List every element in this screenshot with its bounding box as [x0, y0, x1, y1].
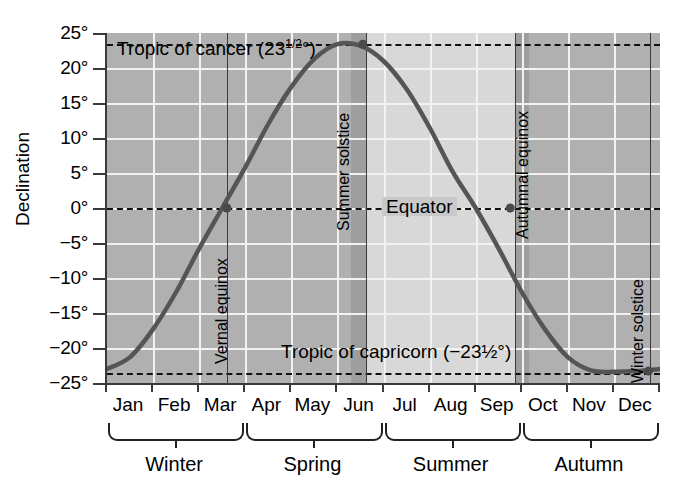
tropic-of-cancer-label: Tropic of cancer (231/2°) [117, 35, 316, 58]
x-axis-tick-mark [105, 383, 107, 392]
tropic-of-cancer-fraction: 1/2 [285, 37, 302, 51]
season-label: Autumn [523, 453, 655, 475]
season-bracket [246, 423, 382, 441]
y-axis-tick-mark [93, 383, 105, 385]
x-axis-tick-mark [520, 383, 522, 392]
y-axis-tick-label: −10° [4, 268, 88, 287]
y-axis-tick-label: 15° [4, 93, 88, 112]
y-axis-tick-label: 20° [4, 58, 88, 77]
season-label: Winter [108, 453, 240, 475]
y-axis-tick-mark [93, 173, 105, 175]
y-axis-tick-mark [93, 33, 105, 35]
autumnal-equinox-label: Autumnal equinox [515, 111, 531, 239]
y-axis-tick-mark [93, 348, 105, 350]
season-bracket [108, 423, 244, 441]
tropic-of-cancer-text: Tropic of cancer (23 [117, 38, 285, 59]
y-axis-tick-mark [93, 208, 105, 210]
x-axis-tick-mark [197, 383, 199, 392]
y-axis-tick-label: 0° [4, 198, 88, 217]
y-axis-tick-label: −5° [4, 233, 88, 252]
y-axis-tick-label: 5° [4, 163, 88, 182]
winter-solstice-label: Winter solstice [630, 279, 646, 383]
x-axis-tick-mark [474, 383, 476, 392]
x-axis-tick-mark [335, 383, 337, 392]
x-axis-tick-mark [151, 383, 153, 392]
data-point-marker [222, 204, 231, 213]
equator-label: Equator [382, 197, 457, 216]
y-axis-tick-mark [93, 68, 105, 70]
x-axis-tick-mark [658, 383, 660, 392]
season-bracket [385, 423, 521, 441]
y-axis-tick-label: −20° [4, 338, 88, 357]
y-axis-tick-label: −25° [4, 373, 88, 392]
x-axis-tick-mark [289, 383, 291, 392]
summer-solstice-label: Summer solstice [336, 113, 352, 231]
x-axis-tick-mark [566, 383, 568, 392]
y-axis-tick-label: −15° [4, 303, 88, 322]
x-axis-tick-mark [382, 383, 384, 392]
x-axis-tick-mark [243, 383, 245, 392]
x-axis-tick-mark [428, 383, 430, 392]
y-axis-tick-mark [93, 278, 105, 280]
y-axis-tick-mark [93, 103, 105, 105]
y-axis-tick-mark [93, 243, 105, 245]
y-axis-tick-label: 10° [4, 128, 88, 147]
declination-chart-figure: Declination 25°20°15°10°5°0°−5°−10°−15°−… [0, 0, 693, 500]
y-axis-tick-mark [93, 313, 105, 315]
data-point-marker [358, 40, 367, 49]
season-label: Summer [385, 453, 517, 475]
vernal-equinox-label: Vernal equinox [214, 258, 230, 364]
tropic-of-cancer-suffix: °) [302, 38, 316, 59]
season-label: Spring [246, 453, 378, 475]
season-bracket [523, 423, 659, 441]
x-axis-tick-mark [612, 383, 614, 392]
y-axis-tick-label: 25° [4, 23, 88, 42]
plot-area: Tropic of cancer (231/2°) Equator Tropic… [105, 33, 660, 385]
tropic-of-capricorn-label: Tropic of capricorn (−23½°) [281, 342, 511, 361]
y-axis-tick-mark [93, 138, 105, 140]
x-axis-month-label: Dec [608, 395, 662, 415]
